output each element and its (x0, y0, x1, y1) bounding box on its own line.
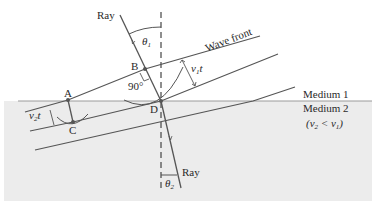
point-d-label: D (150, 103, 158, 115)
point-c-label: C (69, 124, 76, 136)
medium1-label: Medium 1 (303, 88, 349, 100)
medium2-label: Medium 2 (303, 102, 349, 114)
point-d-dot (159, 99, 163, 103)
point-b-label: B (131, 60, 138, 72)
theta1-arc (129, 27, 161, 34)
point-b-dot (143, 67, 147, 71)
refraction-diagram: Ray θ1 Wave front B 90° v1t A C D v2t Ra… (0, 0, 377, 212)
incident-ray-label: Ray (97, 9, 115, 21)
right-angle-label: 90° (128, 80, 143, 92)
refracted-ray-label: Ray (182, 166, 200, 178)
v1t-label: v1t (191, 62, 203, 76)
theta1-label: θ1 (142, 35, 151, 49)
point-a-label: A (64, 87, 72, 99)
